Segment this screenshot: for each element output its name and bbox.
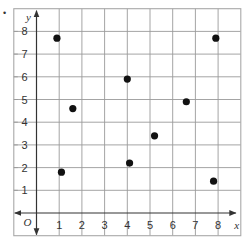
y-tick-label: 4 xyxy=(21,116,27,128)
x-tick-label: 6 xyxy=(170,219,176,231)
x-tick-label: 3 xyxy=(102,219,108,231)
problem-bullet: • xyxy=(3,8,6,18)
y-tick-label: 2 xyxy=(21,162,27,174)
y-tick-label: 5 xyxy=(21,94,27,106)
y-axis-label: y xyxy=(25,11,31,23)
data-point xyxy=(210,178,217,185)
y-tick-label: 3 xyxy=(21,139,27,151)
data-point xyxy=(53,35,60,42)
scatter-plot: • 1234567812345678 x y O xyxy=(0,0,250,247)
tick-labels: 1234567812345678 xyxy=(14,25,221,231)
y-tick-label: 8 xyxy=(21,25,27,37)
data-point xyxy=(183,98,190,105)
origin-label: O xyxy=(24,216,32,228)
grid-lines xyxy=(14,9,241,236)
data-point xyxy=(212,35,219,42)
x-tick-label: 1 xyxy=(56,219,62,231)
x-tick-label: 7 xyxy=(192,219,198,231)
x-tick-label: 5 xyxy=(147,219,153,231)
data-point xyxy=(58,169,65,176)
axes xyxy=(15,11,236,235)
data-point xyxy=(69,105,76,112)
y-tick-label: 6 xyxy=(21,71,27,83)
data-point xyxy=(124,75,131,82)
x-tick-label: 4 xyxy=(124,219,130,231)
x-axis-label: x xyxy=(233,219,239,231)
y-tick-label: 1 xyxy=(21,184,27,196)
data-points xyxy=(53,35,219,185)
x-tick-label: 8 xyxy=(215,219,221,231)
x-tick-label: 2 xyxy=(79,219,85,231)
data-point xyxy=(151,132,158,139)
data-point xyxy=(126,159,133,166)
y-tick-label: 7 xyxy=(21,48,27,60)
